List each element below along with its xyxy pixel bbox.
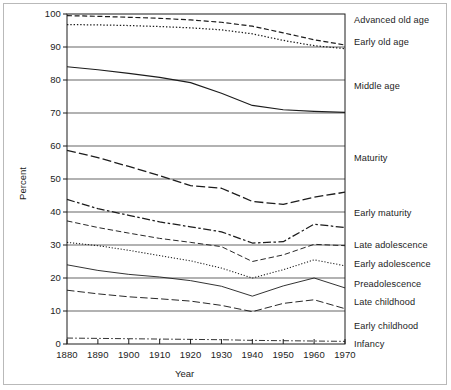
line-chart-plot: [0, 0, 451, 390]
data-series-group: [67, 16, 345, 342]
y-tick-label: 30: [21, 239, 61, 250]
y-axis-title: Percent: [17, 149, 28, 219]
series-line-advanced-old-age: [67, 16, 345, 45]
series-line-late-childhood: [67, 290, 345, 311]
chart-figure: 0102030405060708090100 18801890190019101…: [0, 0, 451, 390]
series-label-middle-age: Middle age: [354, 81, 400, 91]
series-label-early-adolescence: Early adolescence: [354, 259, 431, 269]
y-tick-label: 20: [21, 272, 61, 283]
series-line-infancy: [67, 338, 345, 341]
series-label-infancy: Infancy: [354, 339, 384, 349]
x-tick-label: 1970: [325, 349, 365, 360]
series-label-early-maturity: Early maturity: [354, 208, 412, 218]
series-label-early-childhood: Early childhood: [354, 321, 418, 331]
y-tick-label: 0: [21, 338, 61, 349]
series-line-preadolescence: [67, 265, 345, 296]
series-label-late-adolescence: Late adolescence: [354, 240, 428, 250]
y-tick-label: 10: [21, 305, 61, 316]
series-label-maturity: Maturity: [354, 153, 387, 163]
series-line-late-adolescence: [67, 221, 345, 262]
y-tick-label: 100: [21, 8, 61, 19]
series-line-maturity: [67, 150, 345, 204]
x-axis-title: Year: [175, 368, 194, 379]
y-tick-label: 70: [21, 107, 61, 118]
series-line-middle-age: [67, 67, 345, 113]
series-label-late-childhood: Late childhood: [354, 297, 415, 307]
y-tick-label: 90: [21, 41, 61, 52]
series-label-advanced-old-age: Advanced old age: [354, 15, 429, 25]
series-line-early-maturity: [67, 199, 345, 243]
series-label-preadolescence: Preadolescence: [354, 279, 421, 289]
y-tick-label: 80: [21, 74, 61, 85]
series-line-early-old-age: [67, 25, 345, 49]
series-label-early-old-age: Early old age: [354, 37, 409, 47]
